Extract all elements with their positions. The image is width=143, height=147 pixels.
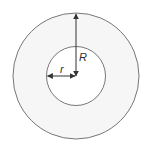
annulus-diagram: R r <box>0 0 143 147</box>
outer-radius-label: R <box>79 51 87 63</box>
